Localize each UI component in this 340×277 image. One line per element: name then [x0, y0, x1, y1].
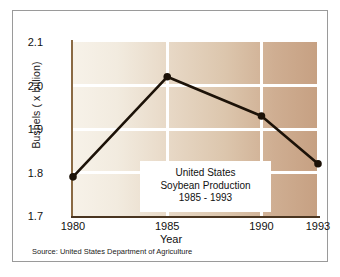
- x-tick-1980: 1980: [49, 220, 97, 232]
- source-note: Source: United States Department of Agri…: [32, 247, 192, 256]
- chart-figure: Bushels ( x billion) 1.71.81.92.02.1 198…: [0, 0, 340, 277]
- data-point-1993: [314, 160, 322, 168]
- y-axis-label: Bushels ( x billion): [30, 30, 42, 180]
- annotation-line-1: United States: [144, 167, 267, 180]
- data-point-1990: [258, 112, 266, 120]
- annotation-line-3: 1985 - 1993: [144, 192, 267, 205]
- chart-annotation-box: United States Soybean Production 1985 - …: [140, 161, 271, 212]
- y-tick-2.1: 2.1: [9, 36, 43, 48]
- y-tick-1.8: 1.8: [9, 167, 43, 179]
- chart-frame: Bushels ( x billion) 1.71.81.92.02.1 198…: [12, 10, 328, 262]
- data-point-1985: [163, 73, 171, 81]
- data-point-1980: [69, 173, 77, 181]
- x-axis-line: [71, 216, 320, 218]
- y-tick-2.0: 2.0: [9, 80, 43, 92]
- annotation-line-2: Soybean Production: [144, 180, 267, 193]
- y-tick-1.7: 1.7: [9, 210, 43, 222]
- x-tick-1985: 1985: [143, 220, 191, 232]
- x-axis-label: Year: [13, 233, 329, 245]
- x-tick-1993: 1993: [294, 220, 340, 232]
- y-tick-1.9: 1.9: [9, 123, 43, 135]
- x-tick-1990: 1990: [237, 220, 285, 232]
